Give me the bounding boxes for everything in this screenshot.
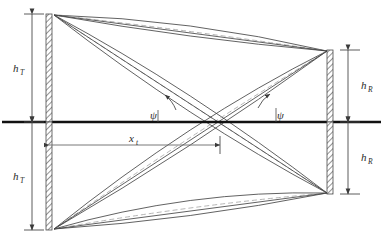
psi-right-label: ψ [277,109,284,121]
h-r-lower-label-sub: R [367,157,373,166]
h-t-upper-label-sub: T [20,68,25,77]
h-t-lower-label-base: h [13,170,19,182]
rx-mast [327,50,333,122]
h-t-lower-dimension: h T [13,122,44,230]
h-r-upper-dimension: h R [340,50,373,122]
h-r-lower-label-base: h [361,151,367,163]
tx-mast [46,14,52,122]
h-t-lower-label-sub: T [20,176,25,185]
propagation-geometry-diagram: h T h T h R h R x t [0,0,383,239]
h-r-upper-label-sub: R [367,85,373,94]
x-t-label-sub: t [136,138,139,147]
h-r-upper-label-base: h [361,79,367,91]
tx-mast-mirror-image [46,122,52,230]
figure-root: h T h T h R h R x t [0,0,383,239]
rx-mast-mirror-image [327,122,333,194]
psi-right-angle: ψ [258,94,284,122]
psi-left-angle: ψ [150,95,176,122]
x-t-label-base: x [128,132,134,144]
h-r-lower-dimension: h R [340,122,373,194]
h-t-upper-label-base: h [13,62,19,74]
psi-left-label: ψ [150,109,157,121]
h-t-upper-dimension: h T [13,14,44,122]
